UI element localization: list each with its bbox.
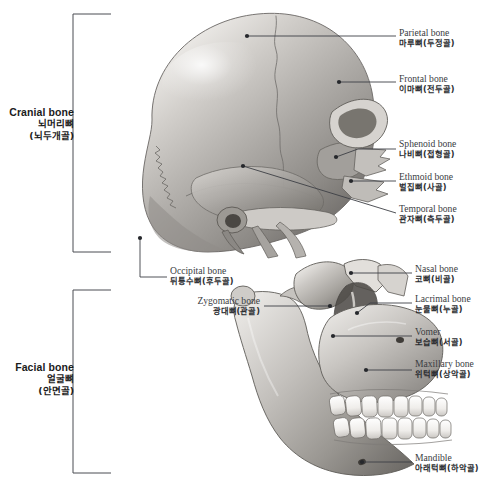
maxilla-shape bbox=[319, 305, 443, 403]
group-label-cranial-en: Cranial bone bbox=[2, 106, 74, 118]
group-label-facial-ko2: (안면골) bbox=[2, 385, 74, 396]
callout-vomer-ko: 보습뼈(서골) bbox=[415, 338, 462, 347]
infraorbital-foramen bbox=[396, 337, 404, 343]
lacrimal-bone bbox=[378, 264, 408, 296]
callout-zygomatic: Zygomatic bone광대뼈(관골) bbox=[110, 296, 260, 316]
anchor-dot-mandible bbox=[360, 460, 364, 464]
anchor-dot-sphenoid bbox=[334, 155, 338, 159]
external-acoustic-meatus bbox=[225, 214, 241, 228]
anchor-dot-parietal bbox=[245, 34, 249, 38]
callout-nasal: Nasal bone코뼈(비골) bbox=[415, 264, 458, 284]
callout-nasal-ko: 코뼈(비골) bbox=[415, 275, 458, 284]
leader-line-occipital bbox=[140, 238, 167, 277]
callout-temporal: Temporal bone관자뼈(측두골) bbox=[399, 204, 457, 224]
anchor-dot-maxillary bbox=[364, 368, 368, 372]
callout-sphenoid: Sphenoid bone나비뼈(접형골) bbox=[399, 139, 456, 159]
anchor-dot-occipital bbox=[138, 236, 142, 240]
callout-maxillary: Maxillary bone위턱뼈(상악골) bbox=[415, 359, 474, 379]
group-label-facial-en: Facial bone bbox=[2, 361, 74, 373]
callout-occipital: Occipital bone뒤통수뼈(후두골) bbox=[170, 266, 233, 286]
group-label-cranial-ko2: (뇌두개골) bbox=[2, 130, 74, 141]
callout-frontal-ko: 이마뼈(전두골) bbox=[399, 85, 454, 94]
callout-parietal-ko: 마루뼈(두정골) bbox=[399, 39, 454, 48]
callout-occipital-ko: 뒤통수뼈(후두골) bbox=[170, 277, 233, 286]
callout-ethmoid: Ethmoid bone벌집뼈(사골) bbox=[399, 172, 453, 192]
bracket-facial bbox=[73, 290, 111, 473]
group-label-cranial-ko1: 뇌머리뼈 bbox=[2, 118, 74, 129]
anchor-dot-ethmoid bbox=[349, 179, 353, 183]
bracket-cranial bbox=[73, 14, 111, 252]
callout-temporal-ko: 관자뼈(측두골) bbox=[399, 215, 457, 224]
callout-lacrimal: Lacrimal bone눈물뼈(누골) bbox=[415, 294, 471, 314]
callout-parietal: Parietal bone마루뼈(두정골) bbox=[399, 28, 454, 48]
group-label-cranial: Cranial bone 뇌머리뼈 (뇌두개골) bbox=[2, 106, 74, 141]
anchor-dot-frontal bbox=[337, 80, 341, 84]
callout-sphenoid-ko: 나비뼈(접형골) bbox=[399, 150, 456, 159]
callout-lacrimal-ko: 눈물뼈(누골) bbox=[415, 305, 471, 314]
callout-frontal: Frontal bone이마뼈(전두골) bbox=[399, 74, 454, 94]
calvaria-highlight bbox=[162, 42, 294, 130]
callout-mandible: Mandible아래턱뼈(하악골) bbox=[415, 453, 478, 473]
upper-spines bbox=[354, 148, 390, 176]
anchor-dot-zygomatic bbox=[328, 304, 332, 308]
callout-maxillary-ko: 위턱뼈(상악골) bbox=[415, 370, 474, 379]
figure-canvas: Cranial bone 뇌머리뼈 (뇌두개골) Facial bone 얼굴뼈… bbox=[0, 0, 499, 500]
group-label-facial-ko1: 얼굴뼈 bbox=[2, 373, 74, 384]
group-brackets bbox=[73, 14, 111, 473]
group-label-facial: Facial bone 얼굴뼈 (안면골) bbox=[2, 361, 74, 396]
anchor-dot-nasal bbox=[349, 271, 353, 275]
anchor-dot-lacrimal bbox=[355, 311, 359, 315]
callout-mandible-ko: 아래턱뼈(하악골) bbox=[415, 464, 478, 473]
callout-zygomatic-ko: 광대뼈(관골) bbox=[110, 307, 260, 316]
callout-ethmoid-ko: 벌집뼈(사골) bbox=[399, 183, 453, 192]
cranium-group bbox=[142, 13, 390, 258]
anchor-dot-vomer bbox=[331, 334, 335, 338]
callout-vomer: Vomer보습뼈(서골) bbox=[415, 327, 462, 347]
anchor-dot-temporal bbox=[241, 164, 245, 168]
